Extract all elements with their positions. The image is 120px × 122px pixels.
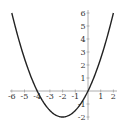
y-tick-label: 1 [80, 74, 85, 83]
tick-labels: -6-5-4-3-2-112654321-1-2 [8, 9, 116, 122]
x-tick-label: -3 [46, 92, 54, 101]
y-tick-label: 4 [80, 35, 85, 44]
y-tick-label: 5 [80, 22, 85, 31]
parabola-curve [12, 13, 114, 117]
y-tick-label: -2 [78, 113, 86, 122]
x-tick-label: 2 [111, 92, 116, 101]
parabola-chart: -6-5-4-3-2-112654321-1-2 [0, 0, 120, 122]
y-tick-label: 3 [80, 48, 85, 57]
x-tick-label: -6 [8, 92, 16, 101]
x-tick-label: 1 [98, 92, 103, 101]
x-tick-label: -2 [59, 92, 67, 101]
x-tick-label: -5 [21, 92, 29, 101]
y-tick-label: 2 [80, 61, 85, 70]
y-tick-label: 6 [80, 9, 85, 18]
